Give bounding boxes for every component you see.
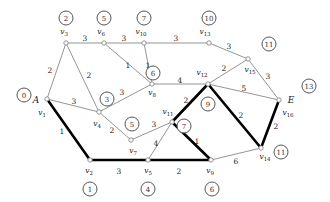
graph-node-v2[interactable] — [88, 158, 92, 162]
graph-figure: 2313231313233424123252362v10Av21v32v43v5… — [0, 0, 330, 202]
graph-canvas — [0, 0, 330, 202]
node-distance-badge-v11: 7 — [177, 119, 192, 134]
node-distance-badge-v2: 1 — [83, 182, 98, 197]
graph-node-v13[interactable] — [207, 41, 211, 45]
graph-edge — [211, 148, 261, 160]
node-distance-badge-v4: 3 — [100, 92, 115, 107]
graph-node-v5[interactable] — [146, 158, 150, 162]
path-edge — [261, 100, 279, 148]
graph-edge — [208, 59, 248, 84]
graph-node-v15[interactable] — [246, 57, 250, 61]
node-distance-badge-v15: 11 — [262, 37, 277, 52]
path-edge — [208, 84, 261, 148]
node-distance-badge-v1: 0 — [17, 88, 32, 103]
node-distance-badge-v9: 6 — [205, 182, 220, 197]
node-distance-badge-v10: 7 — [137, 11, 152, 26]
graph-node-v7[interactable] — [129, 138, 133, 142]
graph-node-v3[interactable] — [64, 41, 68, 45]
graph-node-v9[interactable] — [209, 158, 213, 162]
graph-node-v4[interactable] — [97, 110, 101, 114]
edge-layer — [47, 43, 279, 160]
node-distance-badge-v14: 11 — [274, 145, 289, 160]
node-distance-badge-v6: 5 — [97, 11, 112, 26]
node-distance-badge-v5: 4 — [141, 182, 156, 197]
graph-node-v1[interactable] — [45, 97, 49, 101]
node-distance-badge-v12: 9 — [201, 97, 216, 112]
graph-node-v12[interactable] — [206, 82, 210, 86]
node-distance-badge-v13: 10 — [202, 11, 217, 26]
node-distance-badge-v3: 2 — [59, 11, 74, 26]
node-distance-badge-v7: 5 — [125, 117, 140, 132]
graph-edge — [66, 43, 99, 112]
graph-node-v14[interactable] — [259, 146, 263, 150]
graph-edge — [209, 43, 248, 59]
graph-node-v11[interactable] — [170, 120, 174, 124]
graph-node-v8[interactable] — [150, 82, 154, 86]
node-distance-badge-v8: 6 — [146, 66, 161, 81]
graph-node-v10[interactable] — [142, 41, 146, 45]
graph-node-v6[interactable] — [102, 41, 106, 45]
node-distance-badge-v16: 13 — [302, 79, 317, 94]
graph-edge — [47, 43, 66, 99]
graph-node-v16[interactable] — [277, 98, 281, 102]
